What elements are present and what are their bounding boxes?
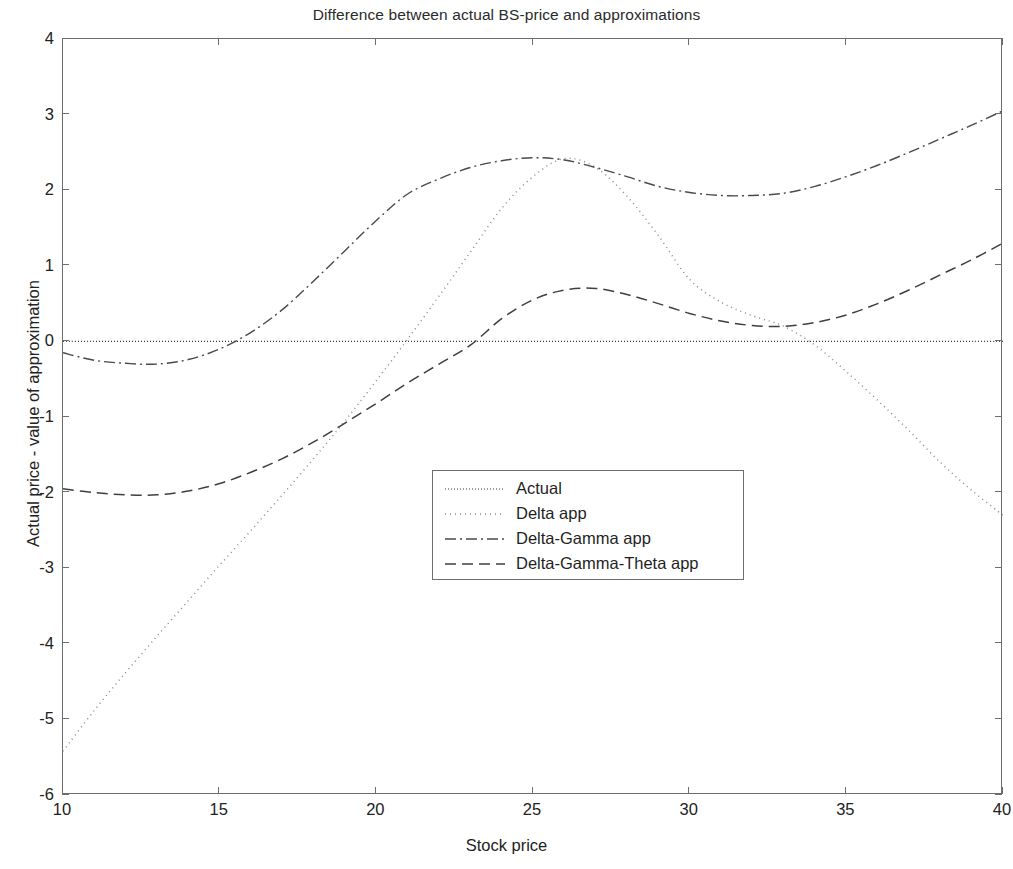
x-tick-label: 20 — [345, 800, 405, 819]
legend-label-delta-gamma-app: Delta-Gamma app — [516, 529, 651, 548]
legend-item-delta-gamma-theta-app: Delta-Gamma-Theta app — [433, 551, 743, 576]
legend-swatch-delta-gamma-theta-app — [443, 557, 507, 571]
x-tick-label: 15 — [189, 800, 249, 819]
series-line-delta-gamma-app — [63, 111, 1003, 364]
legend-item-delta-app: Delta app — [433, 501, 743, 526]
legend-swatch-delta-gamma-app — [443, 532, 507, 546]
y-tick-label: 4 — [8, 29, 54, 48]
series-line-delta-app — [63, 158, 1003, 751]
plot-area — [62, 38, 1002, 794]
legend: Actual Delta app Delta-Gamma app Delta-G… — [432, 470, 744, 580]
y-axis-label: Actual price - value of approximation — [24, 214, 43, 614]
legend-label-actual: Actual — [516, 479, 562, 498]
y-tick-label: -5 — [8, 709, 54, 728]
figure-canvas: Difference between actual BS-price and a… — [0, 0, 1013, 869]
legend-label-delta-gamma-theta-app: Delta-Gamma-Theta app — [516, 554, 699, 573]
legend-item-delta-gamma-app: Delta-Gamma app — [433, 526, 743, 551]
x-tick-label: 40 — [972, 800, 1013, 819]
x-axis-label: Stock price — [0, 836, 1013, 855]
legend-label-delta-app: Delta app — [516, 504, 587, 523]
y-tick-label: -6 — [8, 785, 54, 804]
y-tick-label: -4 — [8, 633, 54, 652]
legend-swatch-delta-app — [443, 507, 507, 521]
x-tick-label: 10 — [32, 800, 92, 819]
plot-svg — [63, 39, 1003, 795]
x-tick-label: 35 — [815, 800, 875, 819]
y-tick-label: 3 — [8, 104, 54, 123]
y-tick-label: 2 — [8, 180, 54, 199]
legend-swatch-actual — [443, 482, 507, 496]
x-tick-label: 30 — [659, 800, 719, 819]
series-line-delta-gamma-theta-app — [63, 243, 1003, 495]
x-tick-label: 25 — [502, 800, 562, 819]
legend-item-actual: Actual — [433, 476, 743, 501]
chart-title: Difference between actual BS-price and a… — [0, 6, 1013, 24]
